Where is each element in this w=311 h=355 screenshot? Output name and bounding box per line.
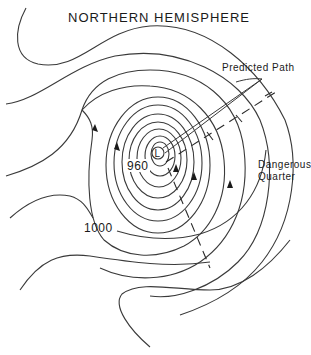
dangerous-quarter-boundary-south (168, 168, 210, 268)
diagram-title: NORTHERN HEMISPHERE (68, 10, 250, 25)
low-center-label: L (155, 148, 161, 159)
cyclone-isobar-diagram: NORTHERN HEMISPHERE L 960 1000 Predicted… (0, 0, 311, 355)
isobar-lower-1 (20, 255, 210, 290)
isobar-2 (6, 53, 269, 296)
path-tick-1 (207, 132, 213, 140)
predicted-path-label: Predicted Path (222, 62, 295, 73)
pressure-label-960: 960 (127, 159, 149, 173)
predicted-path-line-upper (163, 79, 262, 148)
pressure-label-1000: 1000 (84, 221, 113, 235)
wind-arrow-right-mid (191, 172, 197, 180)
dangerous-quarter-label-line2: Quarter (258, 171, 296, 182)
dangerous-quarter-label-line1: Dangerous (258, 159, 311, 170)
path-tick-2 (236, 115, 242, 122)
wind-arrow-right-outer (227, 180, 233, 188)
predicted-path-line-lower (165, 79, 262, 153)
